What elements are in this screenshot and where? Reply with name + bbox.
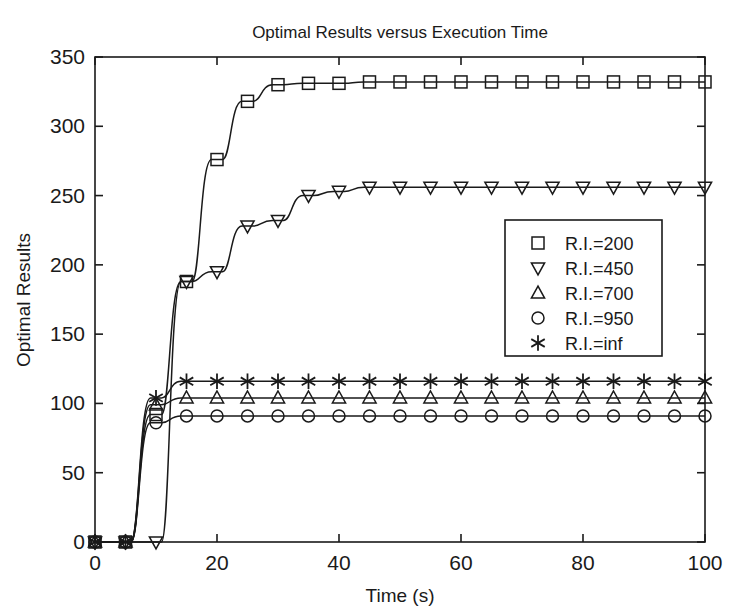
chart-figure: Optimal Results versus Execution Time 05… <box>0 0 751 615</box>
x-axis-title: Time (s) <box>366 585 435 606</box>
y-tick-label: 100 <box>50 391 85 414</box>
y-tick-label: 350 <box>50 45 85 68</box>
legend-label: R.I.=950 <box>565 309 634 329</box>
x-tick-label: 20 <box>205 551 228 574</box>
legend-label: R.I.=450 <box>565 259 634 279</box>
legend-label: R.I.=700 <box>565 284 634 304</box>
y-tick-label: 50 <box>62 461 85 484</box>
y-tick-label: 200 <box>50 253 85 276</box>
x-tick-label: 40 <box>327 551 350 574</box>
y-tick-label: 150 <box>50 322 85 345</box>
chart-title: Optimal Results versus Execution Time <box>252 23 548 42</box>
chart-canvas: Optimal Results versus Execution Time 05… <box>0 0 751 615</box>
legend-label: R.I.=200 <box>565 234 634 254</box>
x-tick-label: 60 <box>449 551 472 574</box>
legend-label: R.I.=inf <box>565 334 624 354</box>
x-tick-label: 0 <box>89 551 101 574</box>
legend-box: R.I.=200R.I.=450R.I.=700R.I.=950R.I.=inf <box>505 220 662 356</box>
y-tick-label: 0 <box>73 530 85 553</box>
y-axis-title: Optimal Results <box>13 233 34 367</box>
x-tick-label: 100 <box>687 551 722 574</box>
y-tick-label: 300 <box>50 114 85 137</box>
x-tick-label: 80 <box>571 551 594 574</box>
y-tick-label: 250 <box>50 184 85 207</box>
